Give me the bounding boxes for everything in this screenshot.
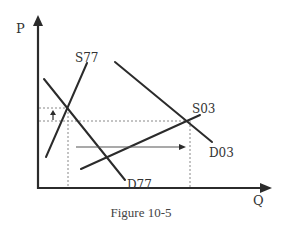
label-s03: S03 — [192, 102, 216, 116]
y-axis-arrow-icon — [33, 15, 43, 26]
diagram-canvas: P Q S77 D77 S03 D03 — [0, 0, 282, 228]
label-d03: D03 — [209, 146, 234, 160]
price-rise-arrow — [50, 110, 56, 120]
label-d77: D77 — [127, 178, 152, 192]
curve-s77 — [46, 63, 87, 157]
right-arrow-icon — [179, 144, 186, 150]
label-s77: S77 — [75, 51, 99, 65]
supply-demand-diagram: P Q S77 D77 S03 D03 Figure 10-5 — [0, 0, 282, 228]
x-axis-arrow-icon — [260, 183, 272, 193]
y-axis-label: P — [16, 21, 25, 36]
up-arrow-icon — [50, 110, 56, 115]
quantity-shift-arrow — [76, 144, 186, 150]
curve-d77 — [44, 79, 125, 180]
curve-s03 — [81, 115, 200, 169]
figure-caption: Figure 10-5 — [0, 205, 282, 221]
